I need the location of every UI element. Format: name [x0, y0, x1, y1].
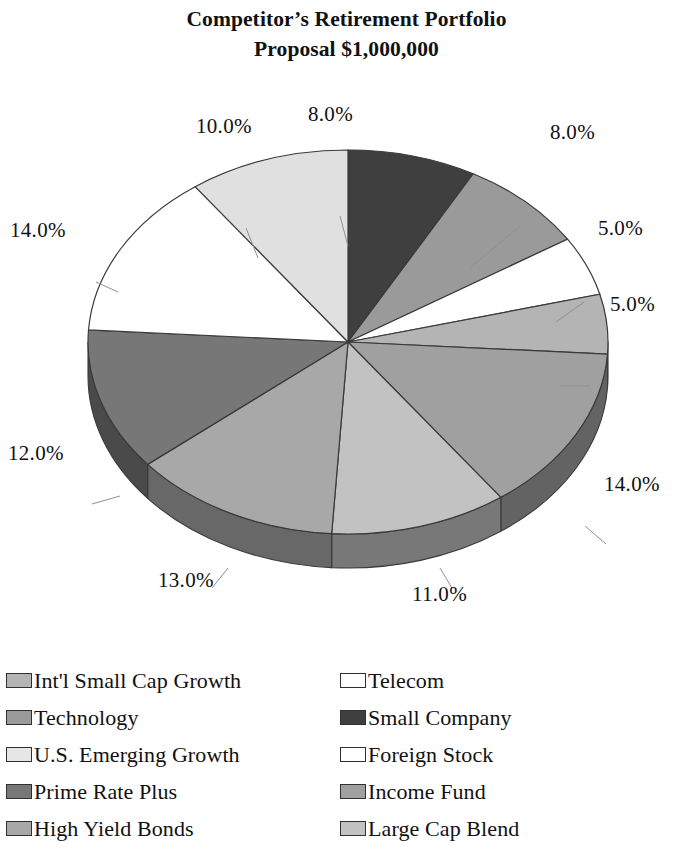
legend-item-label: Foreign Stock — [368, 743, 493, 767]
legend-item-label: Int'l Small Cap Growth — [34, 669, 241, 693]
pie-chart: 8.0% 8.0% 5.0% 5.0% 14.0% 11.0% 13.0% 12… — [0, 96, 693, 636]
pie-leader-line — [585, 526, 606, 544]
pie-label-prime-rate-plus: 12.0% — [8, 441, 64, 466]
pie-label-high-yield-bonds: 13.0% — [158, 568, 214, 593]
pie-label-us-emerging-growth: 10.0% — [196, 114, 252, 139]
pie-chart-svg — [0, 96, 693, 636]
chart-title-line1: Competitor’s Retirement Portfolio — [186, 7, 506, 31]
pie-label-small-company: 8.0% — [308, 102, 353, 127]
legend-swatch — [6, 710, 32, 725]
legend-swatch — [340, 710, 366, 725]
legend-item-label: Small Company — [368, 706, 512, 730]
legend-swatch — [6, 784, 32, 799]
pie-label-large-cap-blend: 11.0% — [412, 582, 467, 607]
chart-legend: Int'l Small Cap GrowthTechnologyU.S. Eme… — [0, 662, 693, 862]
legend-swatch — [340, 784, 366, 799]
legend-item-label: Prime Rate Plus — [34, 780, 177, 804]
legend-item[interactable]: High Yield Bonds — [6, 810, 336, 847]
legend-column-left: Int'l Small Cap GrowthTechnologyU.S. Eme… — [6, 662, 336, 847]
legend-column-right: TelecomSmall CompanyForeign StockIncome … — [340, 662, 690, 847]
chart-title: Competitor’s Retirement Portfolio Propos… — [0, 4, 693, 64]
pie-label-income-fund: 14.0% — [604, 472, 660, 497]
legend-item[interactable]: Technology — [6, 699, 336, 736]
pie-label-foreign-stock: 14.0% — [10, 218, 66, 243]
legend-item[interactable]: Int'l Small Cap Growth — [6, 662, 336, 699]
legend-swatch — [340, 673, 366, 688]
legend-item[interactable]: Large Cap Blend — [340, 810, 690, 847]
legend-swatch — [340, 821, 366, 836]
legend-item-label: Income Fund — [368, 780, 486, 804]
legend-swatch — [6, 821, 32, 836]
legend-item[interactable]: Telecom — [340, 662, 690, 699]
legend-item[interactable]: U.S. Emerging Growth — [6, 736, 336, 773]
chart-title-line2: Proposal $1,000,000 — [0, 34, 693, 64]
legend-item-label: Telecom — [368, 669, 444, 693]
legend-item[interactable]: Foreign Stock — [340, 736, 690, 773]
pie-label-intl-small-cap-growth: 5.0% — [610, 292, 655, 317]
pie-label-technology: 8.0% — [550, 120, 595, 145]
pie-label-telecom: 5.0% — [598, 216, 643, 241]
legend-swatch — [6, 747, 32, 762]
legend-item[interactable]: Small Company — [340, 699, 690, 736]
legend-item-label: Large Cap Blend — [368, 817, 519, 841]
pie-leader-line — [92, 496, 120, 504]
pie-leader-line — [212, 568, 228, 588]
legend-swatch — [340, 747, 366, 762]
legend-item-label: Technology — [34, 706, 139, 730]
legend-item-label: U.S. Emerging Growth — [34, 743, 240, 767]
pie-top-face-group — [88, 150, 608, 534]
legend-item[interactable]: Prime Rate Plus — [6, 773, 336, 810]
legend-swatch — [6, 673, 32, 688]
legend-item-label: High Yield Bonds — [34, 817, 194, 841]
legend-item[interactable]: Income Fund — [340, 773, 690, 810]
